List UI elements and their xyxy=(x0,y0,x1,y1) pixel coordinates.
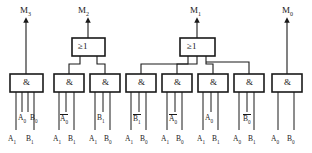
in-up-1b: B0 xyxy=(30,114,38,124)
or-gate-m1-box[interactable] xyxy=(180,38,215,56)
output-label-M0: M0 xyxy=(282,6,293,17)
in-lo-6b: B1 xyxy=(212,135,220,145)
and-gate-4-symbol: & xyxy=(138,78,145,87)
output-label-M3: M3 xyxy=(20,6,31,17)
in-lo-4a: A1 xyxy=(125,135,133,145)
in-up-7: B0 xyxy=(243,114,251,125)
gate-boxes xyxy=(10,38,302,92)
and-gate-5-symbol: & xyxy=(174,78,181,87)
and-gate-6-symbol: & xyxy=(210,78,217,87)
in-lo-3a: A1 xyxy=(89,135,97,145)
in-up-2: A0 xyxy=(60,114,68,125)
or1-input-wires xyxy=(69,56,105,74)
logic-circuit-diagram: ≥1 ≥1 & & & & & & & & M3M2M1M0 A0B0A0B1B… xyxy=(0,0,312,153)
output-label-M1: M1 xyxy=(190,6,201,17)
and-gate-input-stems xyxy=(16,92,294,130)
or-gate-m1-symbol: ≥1 xyxy=(187,42,196,51)
in-lo-3b: B0 xyxy=(104,135,112,145)
or-gate-m2-symbol: ≥1 xyxy=(78,42,87,51)
in-lo-7a: A0 xyxy=(233,135,241,145)
and-gate-2-symbol: & xyxy=(66,78,73,87)
in-lo-7b: B1 xyxy=(248,135,256,145)
in-lo-6a: A1 xyxy=(197,135,205,145)
in-up-6: A0 xyxy=(205,114,213,124)
in-lo-2a: A1 xyxy=(53,135,61,145)
in-lo-2b: B1 xyxy=(68,135,76,145)
output-label-M2: M2 xyxy=(78,6,89,17)
wire-and6-to-or2 xyxy=(206,56,213,74)
in-lo-1a: A1 xyxy=(8,135,16,145)
wire-and5-to-or2 xyxy=(177,56,197,74)
circuit-wiring xyxy=(0,0,312,153)
in-lo-4b: B0 xyxy=(140,135,148,145)
or-gate-m2-box[interactable] xyxy=(72,38,105,56)
in-lo-5a: A1 xyxy=(161,135,169,145)
wire-and2-to-or1 xyxy=(69,56,80,74)
and-gate-8-symbol: & xyxy=(284,78,291,87)
in-up-3: B1 xyxy=(97,114,105,124)
in-lo-8a: A0 xyxy=(271,135,279,145)
in-up-5: A0 xyxy=(169,114,177,125)
in-lo-5b: B0 xyxy=(176,135,184,145)
and-gate-7-symbol: & xyxy=(246,78,253,87)
in-lo-1b: B1 xyxy=(26,135,34,145)
wire-and3-to-or1 xyxy=(97,56,105,74)
in-up-4: B1 xyxy=(133,114,141,125)
and-gate-1-symbol: & xyxy=(23,78,30,87)
in-lo-8b: B0 xyxy=(287,135,295,145)
output-arrows xyxy=(26,20,287,74)
or2-input-wires xyxy=(141,56,249,74)
and-gate-3-symbol: & xyxy=(102,78,109,87)
wire-and4-to-or2 xyxy=(141,56,188,74)
in-up-1a: A0 xyxy=(18,114,26,124)
